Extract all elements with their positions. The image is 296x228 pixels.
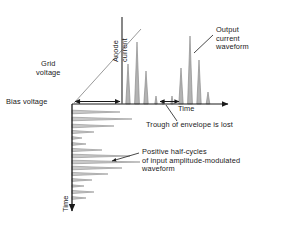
time-vertical-label: Time (62, 195, 71, 212)
transfer-characteristic-line (74, 29, 141, 103)
bias-voltage-label: Bias voltage (6, 98, 47, 107)
positive-half-cycles-label: Positive half-cycles of input amplitude-… (142, 148, 240, 174)
trough-leader-line (166, 105, 177, 121)
grid-voltage-label: Grid voltage (36, 60, 61, 77)
output-current-waveform-spikes (126, 36, 210, 104)
output-waveform-leader-line (194, 35, 213, 53)
input-waveform-leader-line (112, 153, 139, 161)
output-current-waveform-label: Output current waveform (216, 26, 249, 52)
time-axis-label: Time (178, 105, 195, 114)
trough-lost-label: Trough of envelope is lost (146, 121, 233, 130)
input-half-cycle-spikes (72, 110, 140, 199)
anode-current-axis-label: Anode current (112, 38, 129, 62)
modulation-characteristic-diagram (0, 0, 296, 228)
